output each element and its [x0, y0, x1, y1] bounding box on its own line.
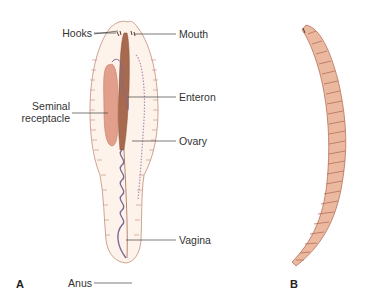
anatomy-figure: [0, 0, 381, 307]
label-mouth: Mouth: [179, 28, 208, 40]
label-hooks: Hooks: [44, 27, 92, 39]
leech-body-a: [90, 21, 158, 263]
label-enteron: Enteron: [179, 91, 216, 103]
label-ovary: Ovary: [179, 135, 207, 147]
seminal-receptacle-shape: [104, 64, 118, 146]
label-seminal-line2: receptacle: [0, 112, 70, 124]
panel-label-b: B: [290, 278, 298, 290]
label-vagina: Vagina: [179, 234, 211, 246]
label-anus: Anus: [44, 277, 92, 289]
panel-label-a: A: [16, 278, 24, 290]
label-seminal-line1: Seminal: [10, 100, 70, 112]
leech-body-b: [292, 25, 346, 266]
